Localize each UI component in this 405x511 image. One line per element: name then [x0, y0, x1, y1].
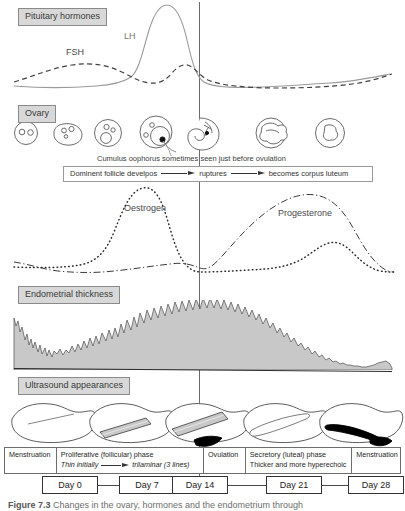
ultrasound-frame-5 [320, 404, 403, 446]
day-axis: Day 0 Day 7 Day 14 Day 21 Day 28 [0, 476, 405, 498]
ovary-stage-antral [95, 120, 122, 147]
follicle-step-2: ruptures [199, 169, 227, 178]
follicle-progression-strip: Dominent follicle develpos ruptures beco… [63, 166, 373, 182]
phase-title: Secretory (luteal) phase [250, 450, 348, 460]
day-box-28: Day 28 [348, 476, 404, 494]
phase-title: Ovulation [208, 450, 242, 460]
oestrogen-curve-label: Oestrogen [124, 203, 166, 213]
phase-cell-menstruation-start: Menstruation [5, 448, 57, 473]
cumulus-oophorus-annotation: Cumulus oophorus sometimes seen just bef… [97, 154, 286, 163]
phase-sub-a: Thin initially [61, 460, 99, 470]
phase-cell-menstruation-end: Menstruation [352, 448, 400, 473]
phase-subtitle: Thicker and more hyperechoic [250, 460, 348, 470]
ovary-stage-corpus-luteum [256, 118, 287, 148]
progesterone-curve-label: Progesterone [278, 208, 332, 218]
follicle-step-1: Dominent follicle develpos [70, 169, 157, 178]
phase-sub-b: trilaminar (3 lines) [132, 460, 189, 470]
fsh-curve [14, 64, 392, 88]
panel-label-endometrial-thickness: Endometrial thickness [18, 286, 120, 304]
menstrual-cycle-figure: Pituitary hormones Ovary Endometrial thi… [0, 0, 405, 511]
arrow-icon [161, 171, 195, 176]
ovary-stage-ruptured-follicle [188, 118, 219, 150]
caption-text: Changes in the ovary, hormones and the e… [53, 500, 303, 510]
lh-curve-label: LH [124, 31, 136, 41]
ultrasound-frame-3 [166, 404, 251, 447]
caption-prefix: Figure [8, 500, 36, 510]
figure-canvas [0, 0, 405, 511]
phase-title: Menstruation [356, 450, 397, 460]
phase-cell-proliferative: Proliferative (follicular) phase Thin in… [57, 448, 204, 473]
caption-number: 7.3 [38, 500, 51, 510]
endometrium-area [14, 298, 392, 370]
day-box-14: Day 14 [172, 476, 228, 494]
panel-label-ovary: Ovary [18, 105, 56, 123]
phase-cell-ovulation: Ovulation [204, 448, 246, 473]
ultrasound-frame-4 [244, 404, 329, 443]
oestrogen-curve [14, 188, 394, 272]
day-box-0: Day 0 [42, 476, 98, 494]
fsh-curve-label: FSH [66, 47, 84, 57]
follicle-step-3: becomes corpus luteum [269, 169, 349, 178]
cycle-phase-table: Menstruation Proliferative (follicular) … [4, 447, 401, 474]
phase-title: Menstruation [9, 450, 53, 460]
day-box-7: Day 7 [119, 476, 175, 494]
ovary-stage-dominant-follicle [140, 116, 176, 152]
day-box-21: Day 21 [266, 476, 322, 494]
ovary-stage-early-antral [54, 124, 82, 146]
ultrasound-frame-2 [90, 404, 175, 443]
figure-caption: Figure 7.3 Changes in the ovary, hormone… [8, 500, 303, 510]
phase-subtitle: Thin initially trilaminar (3 lines) [61, 460, 200, 470]
panel-label-ultrasound-appearances: Ultrasound appearances [18, 377, 130, 395]
phase-title: Proliferative (follicular) phase [61, 450, 200, 460]
panel-label-pituitary-hormones: Pituitary hormones [18, 8, 107, 26]
arrow-icon [101, 463, 129, 468]
free-fluid-blob-2 [370, 437, 392, 446]
progesterone-curve [14, 195, 394, 273]
ovary-stage-primordial [15, 122, 38, 145]
arrow-icon [231, 171, 265, 176]
ovary-stage-corpus-albicans [316, 119, 345, 148]
ultrasound-frame-1 [12, 404, 97, 443]
phase-cell-secretory: Secretory (luteal) phase Thicker and mor… [246, 448, 352, 473]
